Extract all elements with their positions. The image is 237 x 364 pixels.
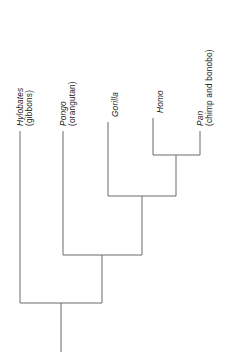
cladogram-figure <box>0 0 237 364</box>
